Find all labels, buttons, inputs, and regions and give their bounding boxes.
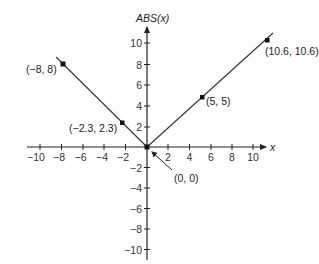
point-label-neg2p3-2p3: (−2.3, 2.3) bbox=[69, 122, 117, 134]
x-axis-label: x bbox=[269, 141, 276, 153]
x-tick-labels: −10 −8 −6 −4 −2 2 4 6 8 10 bbox=[27, 151, 259, 163]
svg-text:−4: −4 bbox=[96, 151, 108, 163]
svg-text:6: 6 bbox=[136, 79, 142, 91]
svg-text:−6: −6 bbox=[130, 203, 142, 215]
abs-right-branch bbox=[147, 33, 273, 147]
svg-text:−10: −10 bbox=[27, 151, 45, 163]
svg-text:4: 4 bbox=[187, 151, 193, 163]
point-5-5 bbox=[200, 95, 205, 100]
point-origin bbox=[145, 145, 150, 150]
svg-text:−10: −10 bbox=[124, 244, 142, 256]
svg-text:4: 4 bbox=[136, 100, 142, 112]
svg-text:10: 10 bbox=[247, 151, 259, 163]
abs-function-chart: −10 −8 −6 −4 −2 2 4 6 8 10 10 8 6 4 2 −2… bbox=[0, 0, 319, 264]
svg-text:−2: −2 bbox=[117, 151, 129, 163]
svg-text:8: 8 bbox=[136, 59, 142, 71]
y-axis-label: ABS(x) bbox=[135, 12, 169, 24]
svg-text:−6: −6 bbox=[75, 151, 87, 163]
svg-text:10: 10 bbox=[130, 37, 142, 49]
y-tick-labels: 10 8 6 4 2 −2 −4 −6 −8 −10 bbox=[124, 37, 142, 256]
svg-text:6: 6 bbox=[208, 151, 214, 163]
svg-text:2: 2 bbox=[165, 151, 171, 163]
point-neg2p3-2p3 bbox=[120, 121, 125, 126]
svg-text:2: 2 bbox=[136, 121, 142, 133]
svg-text:−8: −8 bbox=[53, 151, 65, 163]
svg-text:8: 8 bbox=[229, 151, 235, 163]
point-label-10p6-10p6: (10.6, 10.6) bbox=[265, 45, 319, 57]
point-neg8-8 bbox=[61, 62, 66, 67]
point-label-origin: (0, 0) bbox=[174, 172, 199, 184]
point-10p6-10p6 bbox=[265, 38, 270, 43]
point-label-5-5: (5, 5) bbox=[206, 95, 231, 107]
point-label-neg8-8: (−8, 8) bbox=[26, 63, 57, 75]
svg-text:−8: −8 bbox=[130, 223, 142, 235]
svg-text:−4: −4 bbox=[130, 182, 142, 194]
svg-text:−2: −2 bbox=[130, 162, 142, 174]
